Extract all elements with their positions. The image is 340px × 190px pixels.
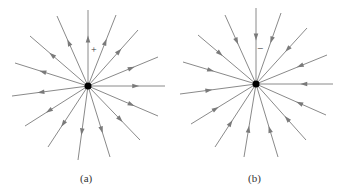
- arrow-icon: [268, 126, 272, 133]
- arrow-icon: [102, 39, 107, 46]
- arrow-icon: [127, 67, 134, 72]
- field-line: [256, 55, 327, 84]
- arrow-icon: [297, 63, 304, 68]
- arrow-icon: [227, 120, 233, 127]
- caption-b: (b): [248, 172, 261, 184]
- field-line: [215, 84, 256, 147]
- field-line: [256, 84, 278, 157]
- field-line: [57, 16, 88, 86]
- field-line: [256, 84, 306, 140]
- arrow-icon: [207, 67, 214, 71]
- caption-a: (a): [80, 172, 92, 184]
- field-line: [30, 36, 88, 86]
- arrow-icon: [233, 37, 238, 44]
- field-line: [183, 62, 256, 84]
- field-line: [12, 86, 88, 96]
- arrow-icon: [37, 89, 44, 94]
- field-line: [78, 86, 88, 160]
- charge-sign-b: −: [257, 42, 263, 54]
- arrow-icon: [86, 35, 91, 42]
- arrow-icon: [212, 107, 219, 113]
- field-line: [88, 57, 158, 86]
- point-charge: [253, 81, 260, 88]
- field-line: [25, 86, 88, 126]
- arrow-icon: [46, 107, 53, 113]
- field-line: [88, 30, 138, 86]
- field-line: [225, 15, 256, 84]
- arrow-icon: [254, 33, 259, 40]
- field-lines-figure: [0, 0, 340, 190]
- field-line: [191, 84, 256, 124]
- arrow-icon: [80, 128, 85, 135]
- field-line: [244, 84, 256, 157]
- field-line: [256, 84, 326, 115]
- arrow-icon: [246, 126, 251, 133]
- arrow-icon: [300, 82, 307, 87]
- field-line: [256, 28, 307, 84]
- arrow-icon: [98, 126, 102, 133]
- arrow-icon: [61, 120, 67, 127]
- arrow-icon: [39, 71, 46, 75]
- field-line: [88, 86, 158, 116]
- arrow-icon: [67, 39, 72, 46]
- field-line: [198, 35, 256, 84]
- field-line: [48, 86, 88, 147]
- charge-sign-a: +: [91, 44, 97, 55]
- arrow-icon: [132, 84, 139, 89]
- field-line: [15, 63, 88, 86]
- field-line: [88, 86, 110, 157]
- arrow-icon: [205, 88, 212, 93]
- point-charge: [85, 83, 92, 90]
- arrow-icon: [296, 102, 303, 107]
- arrow-icon: [270, 36, 274, 43]
- field-line: [180, 84, 256, 94]
- field-line: [88, 86, 140, 140]
- arrow-icon: [127, 101, 134, 106]
